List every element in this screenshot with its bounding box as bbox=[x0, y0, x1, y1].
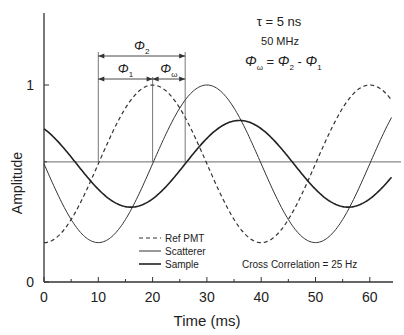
phase-relation-annotation: Φω = Φ2 - Φ1 bbox=[245, 53, 322, 72]
legend-label: Scatterer bbox=[165, 246, 206, 257]
x-tick-label: 10 bbox=[91, 289, 107, 305]
x-tick-label: 50 bbox=[308, 289, 324, 305]
x-tick-label: 20 bbox=[145, 289, 161, 305]
x-tick-label: 0 bbox=[40, 289, 48, 305]
series-scatterer bbox=[44, 85, 392, 243]
legend-label: Sample bbox=[165, 259, 199, 270]
x-axis-label: Time (ms) bbox=[174, 312, 241, 329]
phi2-arrow-head-left bbox=[98, 54, 104, 59]
phi1-label: Φ1 bbox=[118, 61, 134, 79]
series-sample bbox=[44, 120, 392, 207]
x-tick-label: 60 bbox=[362, 289, 378, 305]
y-axis-label: Amplitude bbox=[9, 152, 25, 214]
phi-omega-symbol: Φ bbox=[245, 53, 257, 69]
legend: Ref PMTScattererSample bbox=[139, 233, 206, 270]
phi-omega-arrow-head-right bbox=[179, 77, 185, 82]
phi-omega-label: Φω bbox=[160, 61, 177, 79]
phi1-arrow-head-right bbox=[147, 77, 153, 82]
series-ref-pmt bbox=[44, 85, 392, 243]
frequency-annotation: 50 MHz bbox=[261, 35, 299, 47]
plot-curves bbox=[44, 85, 401, 243]
legend-label: Ref PMT bbox=[165, 233, 204, 244]
chart-svg: Φ2Φ1Φω 010203040506001 Ref PMTScattererS… bbox=[0, 0, 404, 335]
phi2-label: Φ2 bbox=[134, 38, 150, 56]
phase-annotations: Φ2Φ1Φω bbox=[98, 38, 185, 162]
x-tick-label: 30 bbox=[199, 289, 215, 305]
y-tick-label: 1 bbox=[26, 77, 34, 93]
phi1-arrow-head-left bbox=[98, 77, 104, 82]
cross-correlation-annotation: Cross Correlation = 25 Hz bbox=[242, 259, 357, 270]
phi-omega-arrow-head-left bbox=[153, 77, 159, 82]
x-tick-label: 40 bbox=[253, 289, 269, 305]
phi2-arrow-head-right bbox=[179, 54, 185, 59]
y-tick-label: 0 bbox=[26, 274, 34, 290]
phase-shift-chart: Φ2Φ1Φω 010203040506001 Ref PMTScattererS… bbox=[0, 0, 404, 335]
tau-annotation: τ = 5 ns bbox=[257, 14, 302, 29]
